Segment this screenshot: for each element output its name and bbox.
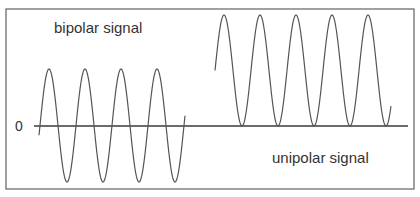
bipolar-unipolar-diagram: bipolar signal unipolar signal 0 [0,0,420,197]
zero-level-label: 0 [15,119,23,133]
bipolar-signal-label: bipolar signal [54,20,142,35]
unipolar-signal-label: unipolar signal [272,150,369,165]
unipolar-signal-wave [215,15,391,126]
